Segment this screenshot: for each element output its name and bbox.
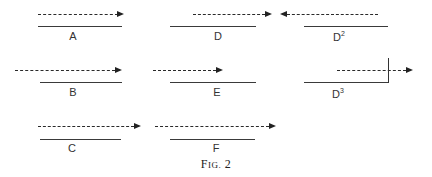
panel-label: E [213, 86, 220, 98]
dashed-arrow-line [155, 126, 269, 127]
figure-2: A D D2 B E D3 C [0, 0, 432, 177]
panel-label-superscript: 2 [341, 30, 345, 37]
dashed-arrow-line [193, 14, 265, 15]
arrowhead-right-icon [117, 11, 124, 17]
solid-line [170, 139, 255, 140]
panel-label-text: D [332, 88, 340, 100]
dashed-arrow-line [287, 14, 378, 15]
caption-smallcaps: IG. [208, 160, 221, 170]
solid-line [38, 26, 122, 27]
solid-line [40, 139, 121, 140]
dashed-arrow-line [337, 70, 406, 71]
solid-line [170, 26, 256, 27]
arrowhead-right-icon [269, 123, 276, 129]
solid-line [304, 26, 388, 27]
solid-line [40, 82, 122, 83]
panel-label: C [68, 142, 76, 154]
dashed-arrow-line [38, 14, 118, 15]
arrowhead-right-icon [216, 67, 223, 73]
vertical-boundary-tick [388, 58, 389, 83]
arrowhead-left-icon [280, 11, 287, 17]
dashed-arrow-line [15, 70, 115, 71]
dashed-arrow-line [38, 126, 134, 127]
dashed-arrow-line [153, 70, 216, 71]
arrowhead-right-icon [406, 67, 413, 73]
panel-label-superscript: 3 [340, 87, 344, 94]
solid-line [304, 82, 388, 83]
caption-number: 2 [225, 157, 232, 171]
figure-caption: FIG. 2 [201, 157, 231, 172]
panel-label: A [69, 30, 76, 42]
solid-line [170, 82, 256, 83]
panel-label-text: D [333, 31, 341, 43]
arrowhead-right-icon [134, 123, 141, 129]
panel-label: D2 [333, 30, 345, 43]
panel-label: F [213, 142, 220, 154]
panel-label: D3 [332, 87, 344, 100]
panel-label: D [214, 30, 222, 42]
arrowhead-right-icon [265, 11, 272, 17]
panel-label: B [69, 86, 76, 98]
arrowhead-right-icon [115, 67, 122, 73]
